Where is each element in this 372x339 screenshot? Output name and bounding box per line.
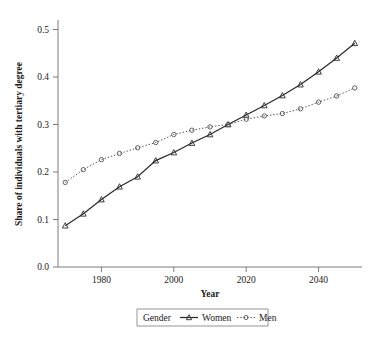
data-series-layer: [62, 40, 357, 228]
circle-marker: [81, 167, 85, 171]
y-tick-label: 0.0: [37, 262, 49, 272]
triangle-marker: [352, 40, 358, 45]
circle-marker: [63, 180, 67, 184]
y-tick-label: 0.5: [37, 25, 49, 35]
y-axis-ticks: 0.00.10.20.30.40.5: [37, 25, 58, 273]
x-axis-ticks: 1980200020202040: [92, 267, 328, 285]
legend-label-women[interactable]: Women: [202, 313, 232, 323]
series-men: [63, 86, 357, 185]
y-tick-label: 0.4: [37, 72, 49, 82]
series-line-men: [65, 88, 355, 183]
x-tick-label: 2040: [309, 275, 328, 285]
legend-label-men[interactable]: Men: [259, 313, 277, 323]
y-tick-label: 0.2: [37, 167, 49, 177]
y-tick-label: 0.3: [37, 120, 49, 130]
circle-marker: [353, 86, 357, 90]
circle-marker: [208, 125, 212, 129]
x-axis-title: Year: [201, 289, 221, 299]
x-tick-label: 1980: [92, 275, 111, 285]
y-tick-label: 0.1: [37, 215, 49, 225]
chart-container: 0.00.10.20.30.40.5 1980200020202040 Year…: [0, 0, 372, 339]
series-women: [62, 40, 357, 228]
chart-legend: GenderWomenMen: [137, 309, 277, 326]
x-tick-label: 2020: [237, 275, 256, 285]
y-axis-title: Share of individuals with tertiary degre…: [14, 62, 24, 226]
series-line-women: [65, 43, 355, 225]
tertiary-degree-line-chart: 0.00.10.20.30.40.5 1980200020202040 Year…: [0, 0, 372, 339]
x-tick-label: 2000: [164, 275, 183, 285]
legend-title: Gender: [143, 313, 172, 323]
